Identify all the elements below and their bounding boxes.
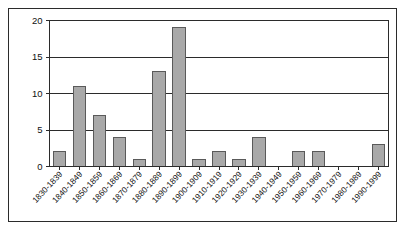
bar-chart-figure: 051015201830-1839: 21840-1849: 111850-18… — [0, 0, 407, 233]
bar: 1960-1969: 2 — [313, 152, 325, 167]
y-axis-tick-label: 20 — [32, 15, 43, 26]
bar: 1910-1919: 2 — [213, 152, 225, 167]
bar: 1950-1959: 2 — [293, 152, 305, 167]
bar: 1870-1879: 1 — [133, 159, 145, 166]
bar: 1890-1899: 19 — [173, 28, 185, 167]
bar: 1880-1889: 13 — [153, 72, 165, 167]
bar: 1930-1939: 4 — [253, 137, 265, 166]
x-axis-tick-labels: 1830-18391840-18491850-18591860-18691870… — [30, 169, 384, 205]
bar: 1830-1839: 2 — [53, 152, 65, 167]
bar: 1840-1849: 11 — [73, 86, 85, 166]
chart-plot-area: 051015201830-1839: 21840-1849: 111850-18… — [9, 9, 396, 221]
bar: 1920-1929: 1 — [233, 159, 245, 166]
y-axis-tick-label: 0 — [37, 161, 42, 172]
bar-series: 1830-1839: 21840-1849: 111850-1859: 7186… — [53, 28, 384, 170]
y-axis-tick-label: 5 — [37, 124, 42, 135]
chart-outer-frame: 051015201830-1839: 21840-1849: 111850-18… — [8, 8, 397, 222]
bar: 1850-1859: 7 — [93, 115, 105, 166]
y-axis-tick-label: 10 — [32, 88, 43, 99]
y-axis-tick-label: 15 — [32, 51, 43, 62]
bar: 1900-1909: 1 — [193, 159, 205, 166]
bar: 1990-1999: 3 — [372, 145, 384, 167]
bar: 1860-1869: 4 — [113, 137, 125, 166]
